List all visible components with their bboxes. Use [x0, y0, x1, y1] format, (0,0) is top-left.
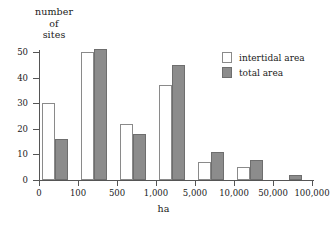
legend-swatch-icon-intertidal [222, 52, 232, 63]
x-axis-tick-label: 0 [36, 188, 41, 198]
bar-total-area [94, 49, 107, 180]
x-axis-tick-mark [156, 181, 157, 186]
x-axis-tick-label: 5,000 [183, 188, 207, 198]
bar-intertidal-area [120, 124, 133, 180]
x-axis-tick-mark [273, 181, 274, 186]
legend: intertidal area total area [222, 50, 305, 80]
x-axis-tick-mark [312, 181, 313, 186]
bar-total-area [172, 65, 185, 180]
y-axis-tick-label: 30 [0, 98, 28, 108]
bar-intertidal-area [81, 52, 94, 180]
x-axis-tick-mark [117, 181, 118, 186]
x-axis-title: ha [0, 203, 327, 214]
y-axis-tick-label: 0 [0, 175, 28, 185]
bar-intertidal-area [198, 162, 211, 180]
bar-total-area [211, 152, 224, 180]
y-axis-tick-label: 50 [0, 47, 28, 57]
x-axis-tick-mark [195, 181, 196, 186]
y-axis-title-line-3: sites [18, 29, 90, 41]
legend-label-intertidal: intertidal area [239, 53, 305, 63]
legend-item-total-area: total area [222, 65, 305, 80]
x-axis-tick-label: 100 [70, 188, 86, 198]
y-axis-tick-label: 10 [0, 149, 28, 159]
bar-intertidal-area [159, 85, 172, 180]
x-axis-tick-mark [39, 181, 40, 186]
x-axis-tick-mark [234, 181, 235, 186]
y-axis-tick-label: 40 [0, 73, 28, 83]
y-axis-title-line-1: number [18, 6, 90, 18]
y-axis-title-line-2: of [18, 18, 90, 30]
x-axis-tick-label: 10,000 [219, 188, 249, 198]
bar-intertidal-area [42, 103, 55, 180]
legend-label-total: total area [239, 68, 283, 78]
bar-total-area [133, 134, 146, 180]
y-axis-title: number of sites [18, 6, 90, 41]
legend-item-intertidal-area: intertidal area [222, 50, 305, 65]
x-axis-tick-label: 100,000 [294, 188, 329, 198]
legend-swatch-icon-total [222, 67, 232, 78]
y-axis-tick-label: 20 [0, 124, 28, 134]
bar-total-area [289, 175, 302, 180]
x-axis-tick-label: 50,000 [258, 188, 288, 198]
x-axis-tick-label: 500 [109, 188, 125, 198]
bar-intertidal-area [237, 167, 250, 180]
bar-total-area [55, 139, 68, 180]
x-axis-tick-mark [78, 181, 79, 186]
bar-total-area [250, 160, 263, 180]
x-axis-tick-label: 1,000 [144, 188, 168, 198]
